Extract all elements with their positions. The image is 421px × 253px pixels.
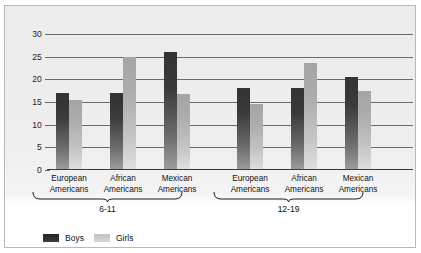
chart-frame: 051015202530 EuropeanAmericansAfricanAme… bbox=[4, 5, 416, 248]
category-label-line1: European bbox=[38, 173, 100, 184]
y-axis-label-30: 30 bbox=[32, 29, 42, 39]
bar-girls-4 bbox=[304, 63, 317, 170]
y-axis-label-5: 5 bbox=[37, 142, 42, 152]
x-axis-line bbox=[47, 169, 413, 170]
bar-boys-4 bbox=[291, 88, 304, 170]
group-brace-0 bbox=[32, 192, 183, 201]
group-label-0: 6-11 bbox=[73, 204, 143, 214]
bar-girls-2 bbox=[177, 94, 190, 170]
bar-boys-5 bbox=[345, 77, 358, 170]
bar-boys-1 bbox=[110, 93, 123, 170]
chart-figure: 051015202530 EuropeanAmericansAfricanAme… bbox=[0, 0, 421, 253]
plot-area: 051015202530 bbox=[50, 34, 413, 170]
legend-label-girls: Girls bbox=[116, 233, 133, 243]
bar-series-layer bbox=[50, 34, 413, 170]
legend-label-boys: Boys bbox=[65, 233, 84, 243]
y-axis-label-10: 10 bbox=[32, 120, 42, 130]
group-brace-1 bbox=[213, 192, 364, 201]
y-axis-label-15: 15 bbox=[32, 97, 42, 107]
y-axis-label-25: 25 bbox=[32, 52, 42, 62]
bar-girls-1 bbox=[123, 57, 136, 170]
y-axis-label-20: 20 bbox=[32, 74, 42, 84]
legend-swatch-girls-icon bbox=[94, 234, 110, 242]
category-label-line1: Mexican bbox=[146, 173, 208, 184]
bar-girls-0 bbox=[69, 100, 82, 170]
group-label-1: 12-19 bbox=[254, 204, 324, 214]
chart-legend: Boys Girls bbox=[43, 233, 133, 243]
legend-swatch-boys-icon bbox=[43, 234, 59, 242]
legend-item-girls: Girls bbox=[94, 233, 133, 243]
legend-item-boys: Boys bbox=[43, 233, 84, 243]
bar-boys-2 bbox=[164, 52, 177, 170]
bar-boys-3 bbox=[237, 88, 250, 170]
bar-girls-3 bbox=[250, 104, 263, 170]
category-label-line1: African bbox=[92, 173, 154, 184]
category-label-line1: Mexican bbox=[327, 173, 389, 184]
category-label-line1: African bbox=[273, 173, 335, 184]
category-label-line1: European bbox=[219, 173, 281, 184]
y-tick-0 bbox=[45, 170, 50, 171]
bar-boys-0 bbox=[56, 93, 69, 170]
bar-girls-5 bbox=[358, 91, 371, 170]
